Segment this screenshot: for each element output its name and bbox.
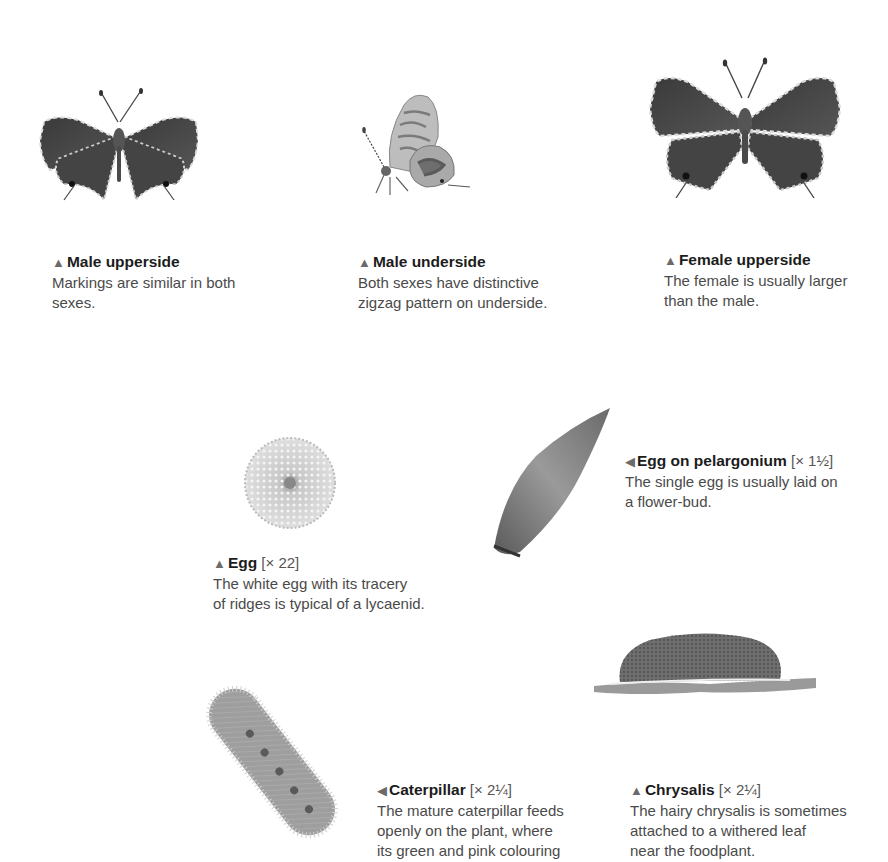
triangle-up-icon: ▲ (358, 255, 371, 270)
caption-text: The white egg with its tracery (213, 574, 473, 594)
female-upperside-caption: ▲Female upperside The female is usually … (664, 250, 884, 311)
caterpillar-icon (192, 672, 352, 852)
butterfly-upperside-icon (648, 52, 844, 198)
chrysalis-illustration (590, 622, 820, 702)
caterpillar-illustration (192, 672, 352, 852)
butterfly-underside-icon (360, 75, 480, 195)
caption-scale: [× 22] (261, 554, 299, 571)
egg-on-pelargonium-caption: ◀Egg on pelargonium [× 1½] The single eg… (625, 451, 885, 512)
caption-text: The single egg is usually laid on (625, 472, 885, 492)
egg-on-pelargonium-illustration (490, 406, 614, 558)
caterpillar-caption: ◀Caterpillar [× 2¼] The mature caterpill… (377, 780, 577, 861)
caption-title: Male underside (373, 253, 486, 270)
egg-icon (243, 436, 337, 530)
caption-title: Egg on pelargonium (637, 452, 787, 469)
caption-text: openly on the plant, where (377, 821, 577, 841)
chrysalis-caption: ▲Chrysalis [× 2¼] The hairy chrysalis is… (630, 780, 880, 861)
male-underside-illustration (360, 75, 480, 195)
male-upperside-caption: ▲Male upperside Markings are similar in … (52, 252, 272, 313)
caption-title: Male upperside (67, 253, 180, 270)
egg-caption: ▲Egg [× 22] The white egg with its trace… (213, 553, 473, 614)
caption-text: than the male. (664, 291, 884, 311)
caption-text: of ridges is typical of a lycaenid. (213, 594, 473, 614)
caption-title: Chrysalis (645, 781, 715, 798)
butterfly-upperside-icon (38, 72, 198, 202)
male-underside-caption: ▲Male underside Both sexes have distinct… (358, 252, 598, 313)
triangle-up-icon: ▲ (630, 783, 643, 798)
caption-text: sexes. (52, 293, 272, 313)
caption-text: The hairy chrysalis is sometimes (630, 801, 880, 821)
caption-scale: [× 1½] (791, 452, 833, 469)
triangle-left-icon: ◀ (625, 454, 635, 469)
caption-text: a flower-bud. (625, 492, 885, 512)
triangle-up-icon: ▲ (213, 556, 226, 571)
caption-scale: [× 2¼] (470, 781, 512, 798)
caption-scale: [× 2¼] (719, 781, 761, 798)
triangle-left-icon: ◀ (377, 783, 387, 798)
caption-text: Both sexes have distinctive (358, 273, 598, 293)
leaf-icon (490, 406, 614, 558)
caption-text: near the foodplant. (630, 841, 880, 861)
triangle-up-icon: ▲ (52, 255, 65, 270)
caption-text: its green and pink colouring (377, 841, 577, 861)
chrysalis-icon (590, 622, 820, 702)
caption-text: zigzag pattern on underside. (358, 293, 598, 313)
caption-text: Markings are similar in both (52, 273, 272, 293)
caption-title: Caterpillar (389, 781, 466, 798)
egg-illustration (243, 436, 337, 530)
caption-text: attached to a withered leaf (630, 821, 880, 841)
triangle-up-icon: ▲ (664, 253, 677, 268)
female-upperside-illustration (648, 52, 844, 198)
caption-title: Egg (228, 554, 257, 571)
male-upperside-illustration (38, 72, 198, 202)
caption-text: The mature caterpillar feeds (377, 801, 577, 821)
caption-title: Female upperside (679, 251, 811, 268)
caption-text: The female is usually larger (664, 271, 884, 291)
